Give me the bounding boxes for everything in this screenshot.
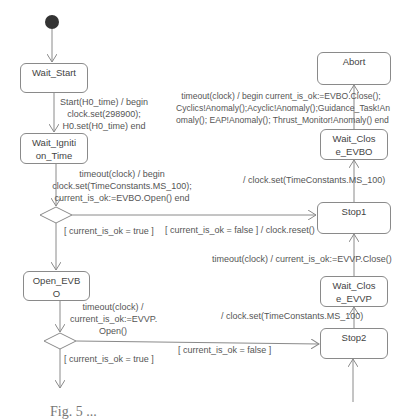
label-line: H0.set(H0_time) end [56,120,152,132]
state-label-line2: e_EVVP [321,292,387,305]
label-line: / clock.set(TimeConstants.MS_100) [221,311,363,321]
state-label-line2: on_Time [21,149,87,162]
state-label: Wait_Start [21,66,87,79]
label-line: [ current_is_ok = false ] / clock.reset(… [165,225,315,235]
transition-label-abort: timeout(clock) / begin current_is_ok:=EV… [176,90,386,126]
state-open-evbo[interactable]: Open_EVB O [23,271,90,301]
state-stop2[interactable]: Stop2 [320,328,388,359]
label-line: Start(H0_time) / begin [56,96,152,108]
state-label-line1: Wait_Igniti [21,136,87,149]
label-line: [ current_is_ok = false ] [178,345,271,355]
guard-label-2-true: [ current_is_ok = true ] [64,353,154,365]
label-line: / clock.set(TimeConstants.MS_100) [243,175,385,185]
state-wait-close-evbo[interactable]: Wait_Clos e_EVBO [320,129,388,160]
guard-label-2-false: [ current_is_ok = false ] [178,344,271,356]
state-label: Stop1 [318,205,390,218]
state-label-line1: Open_EVB [24,274,89,287]
label-line: timeout(clock) / current_is_ok:=EVVP.Clo… [212,254,392,264]
transition-label-stop2-set: / clock.set(TimeConstants.MS_100) [221,310,361,322]
transition-label-ignite: timeout(clock) / begin clock.set(TimeCon… [52,168,192,204]
state-label-line1: Wait_Clos [321,279,387,292]
state-wait-start[interactable]: Wait_Start [20,63,88,93]
label-line: timeout(clock) / begin [52,168,192,180]
state-abort[interactable]: Abort [317,52,391,85]
state-label-line1: Wait_Clos [321,132,387,145]
label-line: current_is_ok:=EVVP. [70,313,156,325]
label-line: Open() [70,325,156,337]
label-line: clock.set(TimeConstants.MS_100); [52,180,192,192]
label-line: [ current_is_ok = true ] [64,354,154,364]
label-line: current_is_ok:=EVBO.Open() end [52,192,192,204]
state-wait-close-evvp[interactable]: Wait_Clos e_EVVP [320,276,388,307]
state-label-line2: O [24,287,89,300]
state-label: Abort [318,55,390,68]
state-label-line2: e_EVBO [321,145,387,158]
label-line: clock.set(298900); [56,108,152,120]
label-line: omaly(); EAP!Anomaly(); Thrust_Monitor!A… [176,114,386,126]
state-label: Stop2 [321,331,387,344]
transition-label-close-evvp: timeout(clock) / current_is_ok:=EVVP.Clo… [212,253,384,265]
state-stop1[interactable]: Stop1 [317,202,391,234]
label-line: Cyclics!Anomaly();Acyclic!Anomaly();Guid… [176,102,386,114]
label-line: timeout(clock) / begin current_is_ok:=EV… [176,90,386,102]
guard-label-1-false: [ current_is_ok = false ] / clock.reset(… [165,224,315,236]
figure-caption: Fig. 5 ... [50,404,97,420]
transition-label-start: Start(H0_time) / begin clock.set(298900)… [56,96,152,132]
transition-label-open-evvp: timeout(clock) / current_is_ok:=EVVP. Op… [70,301,156,337]
state-wait-ignition-time[interactable]: Wait_Igniti on_Time [20,133,88,164]
choice-node-1-icon [40,207,72,223]
label-line: timeout(clock) / [70,301,156,313]
transition-label-stop1-set: / clock.set(TimeConstants.MS_100) [243,174,383,186]
initial-node-icon [45,15,59,29]
guard-label-1-true: [ current_is_ok = true ] [64,225,154,237]
label-line: [ current_is_ok = true ] [64,226,154,236]
